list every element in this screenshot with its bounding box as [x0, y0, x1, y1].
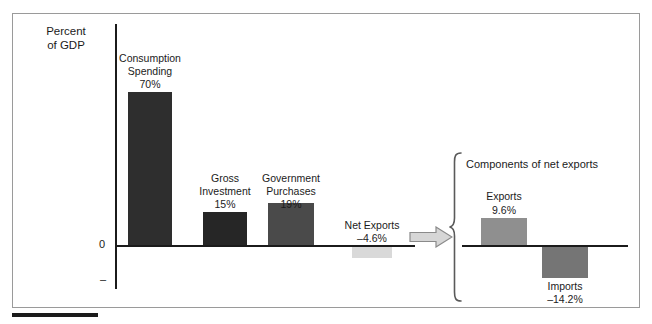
gdp-components-figure: Percent of GDP 0 – Consumption Spending7… — [0, 0, 652, 324]
bar-consumption-spending — [128, 92, 172, 245]
y-axis-tick-zero: 0 — [99, 238, 105, 250]
bar-value-government-purchases: 19% — [250, 198, 332, 210]
bar-label-exports: Exports — [468, 190, 540, 203]
bar-label-consumption-spending: Consumption Spending — [112, 52, 188, 77]
bottom-rule — [12, 313, 98, 317]
bar-value-imports: –14.2% — [529, 293, 601, 305]
y-axis-tick-negative: – — [100, 273, 106, 285]
bar-gross-investment — [203, 212, 247, 245]
bar-imports — [542, 247, 588, 278]
bar-value-exports: 9.6% — [468, 204, 540, 216]
bar-value-net-exports: –4.6% — [332, 232, 412, 244]
right-arrow-icon — [409, 226, 453, 248]
bar-net-exports — [352, 247, 392, 258]
bar-label-net-exports: Net Exports — [332, 219, 412, 232]
bar-exports — [481, 218, 527, 245]
y-axis-title: Percent of GDP — [26, 24, 106, 52]
inset-panel-title: Components of net exports — [466, 158, 598, 170]
bar-label-government-purchases: Government Purchases — [250, 172, 332, 197]
curly-brace-icon — [448, 152, 464, 302]
bar-value-consumption-spending: 70% — [112, 78, 188, 90]
bar-label-imports: Imports — [529, 280, 601, 293]
